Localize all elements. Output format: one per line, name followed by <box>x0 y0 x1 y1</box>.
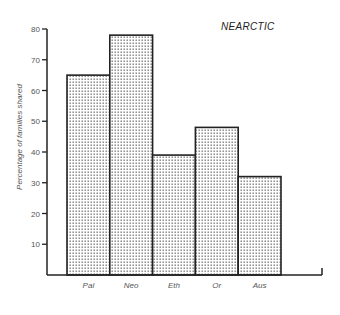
y-tick-label: 30 <box>31 179 40 188</box>
x-tick-label: Pal <box>83 281 95 290</box>
x-tick-label: Or <box>212 281 221 290</box>
bar-eth <box>153 155 196 275</box>
bar-pal <box>67 75 110 275</box>
y-tick-label: 80 <box>31 25 40 34</box>
y-ticks-group: 1020304050607080 <box>31 25 47 249</box>
y-axis-label: Percentage of families shared <box>15 84 24 190</box>
x-labels-group: PalNeoEthOrAus <box>83 281 267 290</box>
x-tick-label: Aus <box>252 281 267 290</box>
bars-group <box>67 35 281 275</box>
y-tick-label: 70 <box>31 56 40 65</box>
y-tick-label: 20 <box>31 210 40 219</box>
bar-neo <box>110 35 153 275</box>
y-tick-label: 40 <box>31 148 40 157</box>
x-tick-label: Eth <box>168 281 181 290</box>
y-tick-label: 50 <box>31 117 40 126</box>
bar-or <box>195 127 238 275</box>
bar-chart: NEARCTIC Percentage of families shared 1… <box>0 0 340 315</box>
x-tick-label: Neo <box>124 281 139 290</box>
bar-aus <box>238 177 281 275</box>
chart-title: NEARCTIC <box>221 21 275 32</box>
y-tick-label: 10 <box>31 240 40 249</box>
y-tick-label: 60 <box>31 87 40 96</box>
